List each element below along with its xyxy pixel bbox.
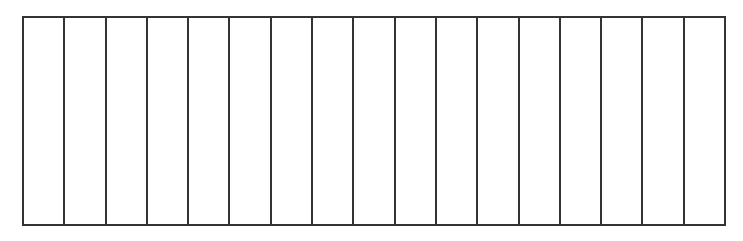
strip-12 (478, 18, 519, 224)
strip-15 (602, 18, 643, 224)
strip-14 (561, 18, 602, 224)
strip-17 (685, 18, 724, 224)
strip-6 (230, 18, 271, 224)
strip-8 (313, 18, 354, 224)
strip-3 (107, 18, 148, 224)
strip-5 (189, 18, 230, 224)
strip-13 (520, 18, 561, 224)
strip-16 (643, 18, 684, 224)
strip-4 (148, 18, 189, 224)
strip-1 (24, 18, 65, 224)
strip-11 (437, 18, 478, 224)
strip-9 (354, 18, 395, 224)
strip-2 (65, 18, 106, 224)
divided-rectangle (22, 16, 726, 226)
strip-10 (396, 18, 437, 224)
strip-7 (272, 18, 313, 224)
